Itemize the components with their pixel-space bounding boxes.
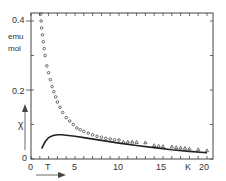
plot-frame [31,13,213,159]
triangle-point [205,149,208,152]
circle-point [105,137,108,140]
y-tick-0: 0 [22,154,27,163]
triangle-point [170,145,173,148]
y-tick-0.4: 0.4 [12,16,25,25]
triangle-point [131,140,134,143]
circle-point [46,65,49,68]
circle-point [40,20,43,23]
circle-point [56,101,59,104]
y-unit-emu: emu [8,33,24,41]
circle-point [54,96,57,99]
circle-point [61,111,64,114]
circle-point [43,47,46,50]
circle-point [44,54,47,57]
circle-point [83,130,86,133]
triangle-point [126,140,129,143]
susceptibility-chart [0,0,226,181]
circle-point [91,134,94,137]
circle-point [75,127,78,130]
x-tick-20: 20 [199,163,209,172]
circle-point [47,71,50,74]
circle-point [41,34,44,37]
circle-point [53,90,56,93]
circle-point [72,123,75,126]
circle-point [59,106,62,109]
circle-point [40,27,43,30]
circle-point [65,116,68,119]
circle-point [79,128,82,131]
solid-curve [42,135,207,153]
triangle-point [197,148,200,151]
circle-point [118,139,121,142]
triangle-point [161,145,164,148]
circle-point [96,135,99,138]
triangle-point [135,141,138,144]
x-tick-15: 15 [156,163,166,172]
triangle-point [183,146,186,149]
triangle-point [175,146,178,149]
circle-point [109,138,112,141]
x-tick-0: 0 [28,163,33,172]
circle-point [42,40,45,43]
x-tick-10: 10 [113,163,123,172]
triangle-point [153,144,156,147]
triangle-point [122,140,125,143]
triangle-point [179,146,182,149]
y-axis-label-chi: χ [18,120,23,130]
x-axis-label-T: T [45,163,51,172]
circle-point [100,136,103,139]
circle-point [51,85,54,88]
circle-point [49,78,52,81]
y-tick-0.2: 0.2 [12,87,25,96]
triangle-point [144,141,147,144]
triangle-point [188,147,191,150]
x-unit-K: K [185,163,191,172]
circle-point [113,138,116,141]
circle-point [68,120,71,123]
triangle-point [157,144,160,147]
x-tick-5: 5 [72,163,77,172]
circle-point [87,132,90,135]
y-unit-mol: mol [8,45,21,53]
